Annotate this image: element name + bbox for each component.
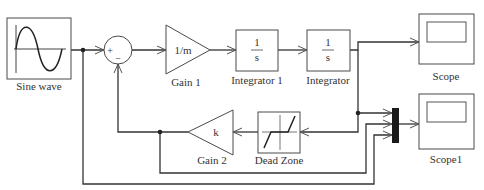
gain2-value: k: [213, 126, 219, 138]
scope-block[interactable]: Scope: [419, 14, 474, 82]
sum-minus-sign: −: [115, 53, 121, 64]
dead-zone-block[interactable]: Dead Zone: [255, 112, 304, 166]
scope1-block[interactable]: Scope1: [419, 94, 474, 165]
integrator1-numerator: 1: [254, 36, 260, 48]
junction-dot: [81, 48, 86, 53]
junction-dot: [158, 130, 163, 135]
gain1-block[interactable]: 1/m Gain 1: [166, 25, 210, 88]
scope-screen-icon: [427, 22, 466, 42]
block-diagram: Sine wave + − 1/m Gain 1 1 s Integrator …: [0, 0, 484, 190]
integrator1-block[interactable]: 1 s Integrator 1: [231, 30, 283, 86]
gain2-block[interactable]: k Gain 2: [188, 110, 233, 166]
scope-label: Scope: [433, 70, 460, 82]
scope1-label: Scope1: [430, 153, 462, 165]
integrator1-label: Integrator 1: [231, 74, 283, 86]
integrator-numerator: 1: [325, 36, 331, 48]
integrator1-denominator: s: [255, 51, 259, 63]
integrator-denominator: s: [326, 51, 330, 63]
dead-zone-label: Dead Zone: [255, 154, 304, 166]
sum-block[interactable]: + −: [104, 36, 132, 64]
junction-dot: [356, 111, 361, 116]
sine-wave-block[interactable]: Sine wave: [7, 18, 71, 92]
wire-gain2-to-sum: [118, 64, 188, 132]
gain1-value: 1/m: [174, 44, 192, 56]
integrator-label: Integrator: [306, 74, 350, 86]
scope1-screen-icon: [427, 102, 466, 122]
gain1-label: Gain 1: [171, 76, 201, 88]
sum-plus-sign: +: [107, 45, 113, 56]
integrator-block[interactable]: 1 s Integrator: [306, 30, 350, 86]
mux-block[interactable]: [392, 108, 399, 143]
sine-wave-label: Sine wave: [16, 80, 62, 92]
wire-integrator-to-scope: [350, 42, 419, 50]
gain2-label: Gain 2: [197, 154, 227, 166]
